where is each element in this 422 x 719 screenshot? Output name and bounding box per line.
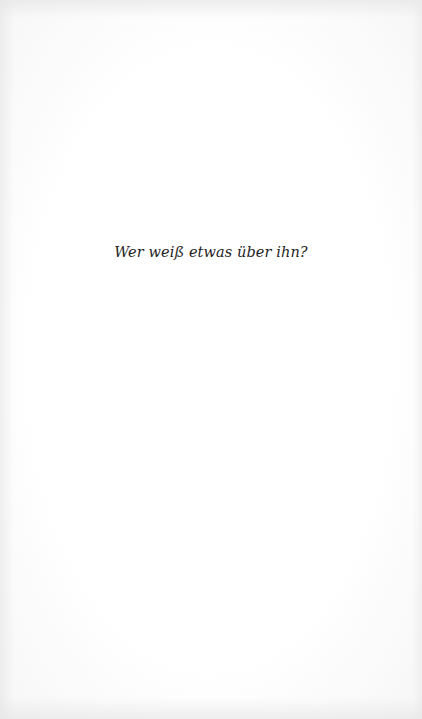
epigraph-line: Wer weiß etwas über ihn? bbox=[0, 244, 422, 260]
book-page: Wer weiß etwas über ihn? bbox=[0, 0, 422, 719]
page-right-shadow bbox=[412, 0, 422, 719]
page-left-shadow bbox=[0, 0, 14, 719]
